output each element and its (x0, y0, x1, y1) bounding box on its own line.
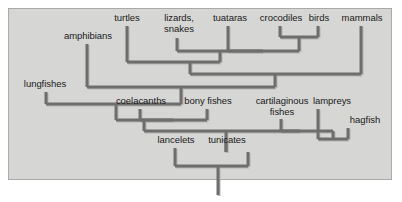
taxon-label-cartilaginous: cartilaginous fishes (256, 96, 309, 117)
taxon-label-turtles: turtles (114, 13, 140, 24)
taxon-label-tuataras: tuataras (213, 13, 247, 24)
taxon-label-lungfishes: lungfishes (24, 79, 66, 90)
taxon-label-lampreys: lampreys (313, 96, 351, 107)
taxon-label-coelacanths: coelacanths (116, 96, 166, 107)
taxon-label-tunicates: tunicates (208, 135, 246, 146)
taxon-label-bony-fishes: bony fishes (184, 96, 232, 107)
taxon-label-amphibians: amphibians (64, 31, 112, 42)
taxon-label-birds: birds (309, 13, 329, 24)
branch-line-layer (46, 26, 361, 195)
taxon-label-lancelets: lancelets (157, 135, 194, 146)
taxon-label-crocodiles: crocodiles (260, 13, 302, 24)
taxon-label-lizards: lizards, snakes (164, 13, 194, 34)
taxon-label-mammals: mammals (342, 13, 383, 24)
cladogram-figure: turtleslizards, snakestuatarascrocodiles… (0, 0, 402, 202)
taxon-label-hagfish: hagfish (350, 115, 380, 126)
